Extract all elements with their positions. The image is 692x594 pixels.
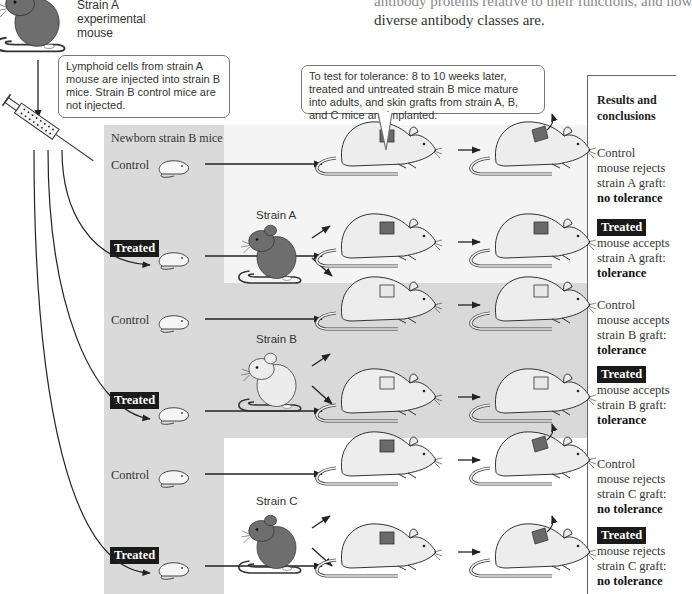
injection-curve-b — [48, 150, 150, 419]
graft-arrow-control — [312, 516, 330, 528]
skin-graft-icon — [380, 440, 394, 452]
donor-mouse-icon-2 — [239, 515, 301, 573]
adult-control-mouse-grafted — [317, 277, 442, 329]
graft-arrow-control — [312, 226, 330, 238]
adult-treated-mouse-grafted — [317, 524, 442, 576]
mouse-whiskers — [434, 550, 442, 560]
adult-control-mouse-outcome — [471, 424, 596, 484]
mouse-eye — [423, 545, 426, 548]
mouse-whiskers — [241, 369, 249, 381]
mouse-eye — [423, 235, 426, 238]
pup-body — [159, 563, 188, 576]
adult-control-mouse-grafted — [317, 122, 442, 174]
skin-graft-icon — [380, 532, 394, 544]
mouse-whiskers — [241, 531, 249, 543]
mouse-foot — [283, 277, 292, 281]
pup-body — [159, 408, 188, 421]
mouse-ear — [265, 225, 277, 236]
adult-treated-mouse-grafted — [317, 369, 442, 421]
mouse-whiskers — [434, 395, 442, 405]
newborn-treated-pup-0 — [159, 253, 188, 270]
syringe-needle — [56, 134, 94, 160]
adult-treated-mouse-outcome — [471, 369, 596, 421]
mouse-foot — [44, 44, 54, 48]
adult-treated-mouse-outcome — [471, 214, 596, 266]
graft-arrow-control — [312, 354, 330, 366]
mouse-whiskers — [241, 241, 249, 253]
donor-mouse-icon-1 — [239, 353, 301, 411]
mouse-body — [341, 432, 436, 476]
mouse-whiskers — [588, 303, 596, 313]
adult-control-mouse-outcome — [471, 114, 596, 174]
newborn-treated-pup-1 — [159, 408, 188, 425]
pup-tail — [161, 421, 174, 424]
experimental-mouse-icon — [0, 0, 65, 51]
pup-eye — [181, 412, 183, 414]
mouse-eye — [256, 528, 259, 531]
mouse-whiskers — [588, 458, 596, 468]
pup-eye — [181, 165, 183, 167]
mouse-foot — [283, 567, 292, 571]
mouse-whiskers — [588, 395, 596, 405]
pup-body — [159, 471, 188, 484]
skin-graft-icon — [380, 285, 394, 297]
mouse-eye — [423, 298, 426, 301]
mouse-eye — [577, 143, 580, 146]
newborn-treated-pup-2 — [159, 563, 188, 580]
pup-tail — [161, 266, 174, 269]
mouse-eye — [577, 545, 580, 548]
pup-eye — [181, 320, 183, 322]
mouse-body — [495, 277, 590, 321]
skin-graft-icon — [534, 222, 548, 234]
pup-tail — [161, 329, 174, 332]
mouse-ear — [265, 353, 277, 364]
mouse-eye — [13, 1, 16, 4]
mouse-whiskers — [434, 303, 442, 313]
mouse-body — [341, 369, 436, 413]
pup-body — [159, 253, 188, 266]
mouse-whiskers — [588, 148, 596, 158]
pup-body — [159, 161, 188, 174]
mouse-whiskers — [434, 240, 442, 250]
mouse-body — [495, 214, 590, 258]
pup-tail — [161, 576, 174, 579]
adult-treated-mouse-outcome — [471, 516, 596, 576]
injection-curve-c — [34, 150, 150, 573]
mouse-body — [341, 214, 436, 258]
newborn-control-pup-0 — [159, 161, 188, 178]
adult-treated-mouse-grafted — [317, 214, 442, 266]
newborn-control-pup-2 — [159, 471, 188, 488]
pup-eye — [181, 567, 183, 569]
mouse-whiskers — [588, 240, 596, 250]
adult-control-mouse-grafted — [317, 432, 442, 484]
mouse-body — [341, 524, 436, 568]
pup-tail — [161, 174, 174, 177]
mouse-body — [341, 277, 436, 321]
skin-graft-icon — [534, 377, 548, 389]
mouse-whiskers — [588, 550, 596, 560]
mouse-eye — [577, 298, 580, 301]
mouse-body — [495, 369, 590, 413]
mouse-eye — [423, 143, 426, 146]
mouse-whiskers — [434, 458, 442, 468]
mouse-whiskers — [434, 148, 442, 158]
mouse-eye — [577, 390, 580, 393]
syringe-barrel — [15, 103, 60, 139]
syringe-icon — [3, 94, 98, 166]
pup-eye — [181, 475, 183, 477]
skin-graft-icon — [380, 222, 394, 234]
pup-body — [159, 316, 188, 329]
skin-graft-icon — [534, 285, 548, 297]
pup-eye — [181, 257, 183, 259]
mouse-ear — [265, 515, 277, 526]
mouse-eye — [256, 238, 259, 241]
graft-arrow-treated — [312, 386, 332, 404]
newborn-control-pup-1 — [159, 316, 188, 333]
donor-mouse-icon-0 — [239, 225, 301, 283]
pup-tail — [161, 484, 174, 487]
mouse-eye — [577, 235, 580, 238]
mouse-eye — [256, 366, 259, 369]
adult-control-mouse-outcome — [471, 277, 596, 329]
mouse-eye — [577, 453, 580, 456]
